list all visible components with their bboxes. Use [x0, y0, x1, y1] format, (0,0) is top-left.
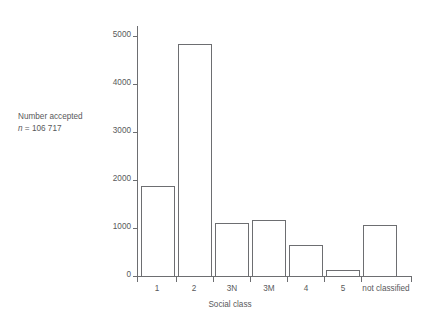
bar-category-4 — [289, 245, 323, 277]
bar-chart-figure: Number accepted n = 106 717 0 1000 2000 … — [0, 0, 432, 336]
bar-category-3M — [252, 220, 286, 277]
x-tick-mark — [213, 277, 214, 282]
y-tick-mark — [133, 228, 137, 229]
y-tick-label: 3000 — [113, 126, 131, 135]
y-tick-mark — [133, 132, 137, 133]
x-tick-mark — [411, 277, 412, 282]
y-axis-caption: Number accepted n = 106 717 — [18, 111, 110, 134]
bar-category-5 — [326, 270, 360, 277]
y-tick-mark — [133, 84, 137, 85]
y-tick-mark — [133, 180, 137, 181]
x-tick-mark — [324, 277, 325, 282]
y-axis-line — [137, 26, 138, 277]
x-tick-label-1: 1 — [155, 284, 160, 293]
y-axis-caption-line2: n = 106 717 — [18, 123, 110, 135]
x-tick-label-3N: 3N — [227, 284, 237, 293]
x-axis-title: Social class — [0, 300, 432, 309]
bar-category-2 — [178, 44, 212, 277]
x-tick-mark — [176, 277, 177, 282]
x-axis-title-text: Social class — [208, 300, 251, 309]
y-tick-label: 5000 — [113, 30, 131, 39]
x-tick-label-4: 4 — [304, 284, 309, 293]
plot-area: 0 1000 2000 3000 4000 5000 — [137, 26, 412, 277]
y-tick-label: 1000 — [113, 222, 131, 231]
sample-size-value: = 106 717 — [23, 124, 62, 133]
bar-category-3N — [215, 223, 249, 277]
y-tick-label: 4000 — [113, 78, 131, 87]
y-tick-label: 0 — [126, 270, 131, 279]
x-tick-mark — [137, 277, 138, 282]
y-tick-label: 2000 — [113, 174, 131, 183]
x-tick-label-5: 5 — [341, 284, 346, 293]
x-tick-mark — [287, 277, 288, 282]
y-tick-mark — [133, 36, 137, 37]
bar-category-1 — [141, 186, 175, 277]
x-tick-label-3M: 3M — [263, 284, 274, 293]
x-tick-mark — [250, 277, 251, 282]
x-tick-label-not-classified: not classified — [362, 284, 409, 293]
bar-category-not-classified — [363, 225, 397, 277]
x-tick-mark — [361, 277, 362, 282]
x-tick-label-2: 2 — [192, 284, 197, 293]
y-axis-caption-line1: Number accepted — [18, 111, 110, 123]
